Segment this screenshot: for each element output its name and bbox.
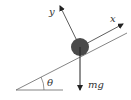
angle-label: θ: [47, 77, 53, 88]
x-axis-label: x: [110, 13, 116, 24]
incline-diagram: y x θ mg: [0, 0, 131, 100]
y-axis-label: y: [48, 6, 55, 17]
angle-arc: [41, 77, 44, 90]
incline-line: [16, 33, 127, 90]
weight-label: mg: [88, 79, 104, 90]
